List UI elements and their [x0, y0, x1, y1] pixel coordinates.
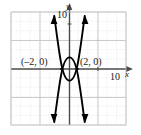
plot-canvas — [0, 0, 141, 135]
graph-figure: y 10 10 x (–2, 0) (2, 0) — [0, 0, 141, 135]
